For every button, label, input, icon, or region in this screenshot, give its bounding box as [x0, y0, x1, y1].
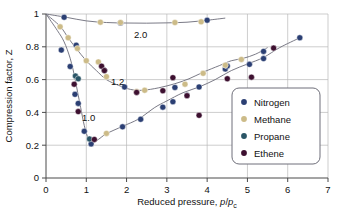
- data-point-methane: [57, 24, 63, 30]
- y-tick-label: 0.4: [26, 107, 39, 118]
- legend-label-ethene[interactable]: Ethene: [254, 148, 284, 159]
- y-tick-label: 1: [34, 8, 39, 19]
- legend-label-nitrogen[interactable]: Nitrogen: [254, 97, 290, 108]
- data-point-ethene: [134, 89, 140, 95]
- data-point-nitrogen: [160, 104, 166, 110]
- x-axis-title: Reduced pressure, p/pc: [137, 196, 237, 209]
- data-point-ethene: [248, 74, 254, 80]
- data-point-ethene: [184, 93, 190, 99]
- data-point-ethene: [196, 112, 202, 118]
- legend-marker-ethene[interactable]: [241, 150, 247, 156]
- legend-label-methane[interactable]: Methane: [254, 114, 291, 125]
- data-point-methane: [103, 74, 109, 80]
- legend-marker-propane[interactable]: [241, 133, 247, 139]
- data-point-ethene: [170, 75, 176, 81]
- chart-legend[interactable]: NitrogenMethanePropaneEthene: [232, 88, 320, 164]
- data-point-nitrogen: [204, 17, 210, 23]
- data-point-methane: [238, 56, 244, 62]
- data-point-nitrogen: [297, 35, 303, 41]
- data-point-nitrogen: [138, 116, 144, 122]
- legend-label-propane[interactable]: Propane: [254, 131, 290, 142]
- x-tick-label: 5: [245, 184, 250, 195]
- x-axis-title-prefix: Reduced pressure,: [137, 196, 220, 207]
- data-point-nitrogen: [120, 124, 126, 130]
- curve-label-1.0: 1.0: [82, 112, 95, 123]
- legend-marker-methane[interactable]: [241, 116, 247, 122]
- data-point-ethene: [101, 68, 107, 74]
- data-point-nitrogen: [170, 99, 176, 105]
- x-tick-label: 0: [43, 184, 48, 195]
- data-point-methane: [222, 62, 228, 68]
- data-point-nitrogen: [196, 84, 202, 90]
- data-point-nitrogen: [81, 128, 87, 134]
- legend-marker-nitrogen[interactable]: [241, 99, 247, 105]
- y-tick-label: 0.8: [26, 41, 39, 52]
- data-point-nitrogen: [172, 84, 178, 90]
- data-point-nitrogen: [261, 56, 267, 62]
- data-point-methane: [118, 20, 124, 26]
- data-point-methane: [103, 130, 109, 136]
- x-tick-label: 1: [84, 184, 89, 195]
- data-point-ethene: [224, 76, 230, 82]
- data-point-nitrogen: [61, 14, 67, 20]
- data-point-nitrogen: [261, 48, 267, 54]
- data-point-methane: [200, 70, 206, 76]
- data-point-nitrogen: [75, 100, 81, 106]
- data-point-nitrogen: [72, 91, 78, 97]
- chart-figure: 2.01.21.0 0123456700.20.40.60.81 Nitroge…: [0, 0, 345, 211]
- data-point-propane: [75, 76, 81, 82]
- data-point-methane: [74, 45, 80, 51]
- data-point-ethene: [75, 109, 81, 115]
- data-point-methane: [142, 87, 148, 93]
- data-point-methane: [198, 19, 204, 25]
- curve-label-2.0: 2.0: [134, 29, 147, 40]
- x-tick-label: 2: [124, 184, 129, 195]
- data-point-methane: [172, 20, 178, 26]
- data-point-ethene: [91, 136, 97, 142]
- curve-labels: 2.01.21.0: [82, 29, 147, 124]
- curve-label-1.2: 1.2: [111, 76, 124, 87]
- data-point-nitrogen: [67, 63, 73, 69]
- y-tick-label: 0.6: [26, 74, 39, 85]
- data-point-ethene: [160, 88, 166, 94]
- y-tick-label: 0.2: [26, 140, 39, 151]
- x-axis-title-subscript: c: [233, 202, 237, 209]
- data-point-nitrogen: [58, 47, 64, 53]
- data-point-nitrogen: [246, 61, 252, 67]
- data-point-ethene: [271, 45, 277, 51]
- x-tick-label: 3: [164, 184, 169, 195]
- data-point-methane: [182, 81, 188, 87]
- data-point-methane: [65, 35, 71, 41]
- x-tick-label: 7: [325, 184, 330, 195]
- data-point-ethene: [71, 81, 77, 87]
- svg-text:Reduced pressure, p/pc: Reduced pressure, p/pc: [137, 196, 237, 209]
- data-point-methane: [97, 19, 103, 25]
- compression-factor-chart: 2.01.21.0 0123456700.20.40.60.81 Nitroge…: [0, 0, 345, 211]
- x-tick-label: 4: [204, 184, 209, 195]
- y-axis-title: Compression factor, Z: [3, 49, 14, 142]
- y-tick-label: 0: [34, 172, 39, 183]
- data-point-methane: [83, 58, 89, 64]
- x-tick-label: 6: [285, 184, 290, 195]
